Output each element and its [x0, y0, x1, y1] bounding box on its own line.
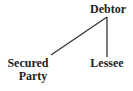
node-debtor: Debtor	[86, 3, 130, 16]
node-secured-party: Secured Party	[2, 57, 54, 83]
node-lessee: Lessee	[86, 57, 128, 70]
node-secured-party-label-line2: Party	[2, 70, 54, 83]
node-lessee-label: Lessee	[90, 56, 123, 70]
node-debtor-label: Debtor	[90, 2, 126, 16]
edge-debtor-to-secured-party	[51, 17, 107, 55]
